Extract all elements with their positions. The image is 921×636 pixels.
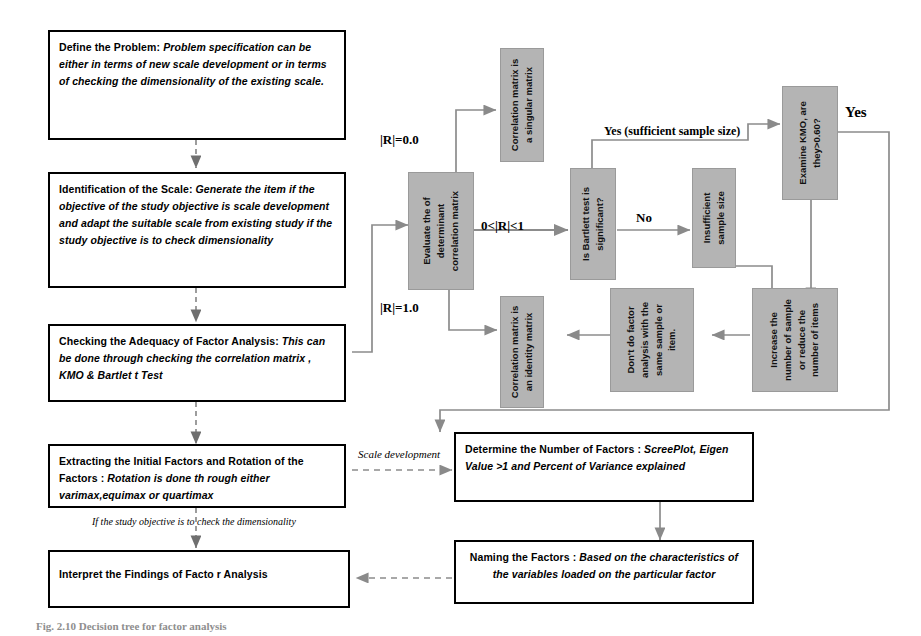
box-interpret-the-findings-body: r Analysis <box>217 568 268 580</box>
gbox-bartlett-test-line-1: significant? <box>593 187 607 261</box>
gbox-insufficient-sample-size-text: Insufficient sample size <box>700 191 728 244</box>
gbox-increase-sample-line-1: number of sample <box>781 299 795 381</box>
gbox-examine-kmo-line-1: they>0.60? <box>810 101 824 184</box>
gbox-increase-sample[interactable]: Increase the number of sample or reduce … <box>752 288 838 392</box>
edge-label-scale-development: Scale development <box>358 448 440 460</box>
gbox-identity-matrix[interactable]: Correlation matrix is an identity matrix <box>500 296 544 408</box>
edge-label-r-equals-zero: |R|=0.0 <box>380 132 419 148</box>
flowchart-canvas: Define the Problem: Problem specificatio… <box>0 0 921 636</box>
gbox-singular-matrix-text: Correlation matrix is a singular matrix <box>508 59 536 151</box>
gbox-evaluate-determinant[interactable]: Evaluate the of determinant correlation … <box>408 172 474 290</box>
gbox-insufficient-sample-size-line-0: Insufficient <box>700 191 714 244</box>
gbox-evaluate-determinant-line-1: determinant <box>434 191 448 271</box>
edge-label-check-dimensionality: If the study objective is to check the d… <box>92 516 296 527</box>
box-determine-number-of-factors-lead: Determine the Number of Factors : <box>465 443 641 455</box>
figure-caption: Fig. 2.10 Decision tree for factor analy… <box>36 620 227 632</box>
gbox-dont-do-factor-analysis-line-2: same sample or <box>652 302 666 378</box>
gbox-evaluate-determinant-line-0: Evaluate the of <box>420 191 434 271</box>
gbox-dont-do-factor-analysis-line-3: item. <box>666 302 680 378</box>
box-identification-of-the-scale-lead: Identification of the Scale: <box>59 183 192 195</box>
box-interpret-the-findings[interactable]: Interpret the Findings of Facto r Analys… <box>48 550 350 608</box>
gbox-bartlett-test-line-0: Is Bartlett test is <box>579 187 593 261</box>
gbox-insufficient-sample-size[interactable]: Insufficient sample size <box>692 168 736 268</box>
box-checking-the-adequacy[interactable]: Checking the Adequacy of Factor Analysis… <box>48 324 346 402</box>
gbox-increase-sample-text: Increase the number of sample or reduce … <box>767 299 822 381</box>
gbox-singular-matrix[interactable]: Correlation matrix is a singular matrix <box>500 48 544 162</box>
edge-label-r-equals-one: |R|=1.0 <box>380 300 419 316</box>
box-naming-the-factors[interactable]: Naming the Factors : Based on the charac… <box>454 540 754 604</box>
box-extracting-initial-factors[interactable]: Extracting the Initial Factors and Rotat… <box>48 444 346 508</box>
edge-label-r-between: 0<|R|<1 <box>481 218 524 234</box>
box-naming-the-factors-lead: Naming the Factors : <box>470 551 576 563</box>
gbox-increase-sample-line-0: Increase the <box>767 299 781 381</box>
box-interpret-the-findings-lead: Interpret the Findings of Facto <box>59 568 214 580</box>
edge-label-yes-kmo: Yes <box>845 104 867 121</box>
box-determine-number-of-factors[interactable]: Determine the Number of Factors : ScreeP… <box>454 432 754 502</box>
gbox-examine-kmo[interactable]: Examine KMO, are they>0.60? <box>782 86 838 200</box>
gbox-increase-sample-line-2: or reduce the <box>795 299 809 381</box>
gbox-bartlett-test[interactable]: Is Bartlett test is significant? <box>570 168 616 280</box>
gbox-examine-kmo-line-0: Examine KMO, are <box>796 101 810 184</box>
box-identification-of-the-scale[interactable]: Identification of the Scale: Generate th… <box>48 172 346 288</box>
gbox-singular-matrix-line-0: Correlation matrix is <box>508 59 522 151</box>
gbox-bartlett-test-text: Is Bartlett test is significant? <box>579 187 607 261</box>
gbox-dont-do-factor-analysis[interactable]: Don't do factor analysis with the same s… <box>610 288 694 392</box>
gbox-dont-do-factor-analysis-text: Don't do factor analysis with the same s… <box>624 302 679 378</box>
gbox-examine-kmo-text: Examine KMO, are they>0.60? <box>796 101 824 184</box>
box-checking-the-adequacy-lead: Checking the Adequacy of Factor Analysis… <box>59 335 279 347</box>
edge-label-no: No <box>636 210 652 226</box>
gbox-evaluate-determinant-text: Evaluate the of determinant correlation … <box>420 191 461 271</box>
gbox-identity-matrix-line-0: Correlation matrix is <box>508 306 522 398</box>
gbox-increase-sample-line-3: number of items <box>809 299 823 381</box>
gbox-dont-do-factor-analysis-line-0: Don't do factor <box>624 302 638 378</box>
gbox-identity-matrix-text: Correlation matrix is an identity matrix <box>508 306 536 398</box>
gbox-singular-matrix-line-1: a singular matrix <box>522 59 536 151</box>
gbox-dont-do-factor-analysis-line-1: analysis with the <box>638 302 652 378</box>
edge-label-yes-sufficient-sample-size: Yes (sufficient sample size) <box>604 124 740 139</box>
gbox-insufficient-sample-size-line-1: sample size <box>714 191 728 244</box>
gbox-identity-matrix-line-1: an identity matrix <box>522 306 536 398</box>
gbox-evaluate-determinant-line-2: correlation matrix <box>448 191 462 271</box>
box-define-the-problem-lead: Define the Problem: <box>59 41 160 53</box>
box-define-the-problem[interactable]: Define the Problem: Problem specificatio… <box>48 30 346 140</box>
